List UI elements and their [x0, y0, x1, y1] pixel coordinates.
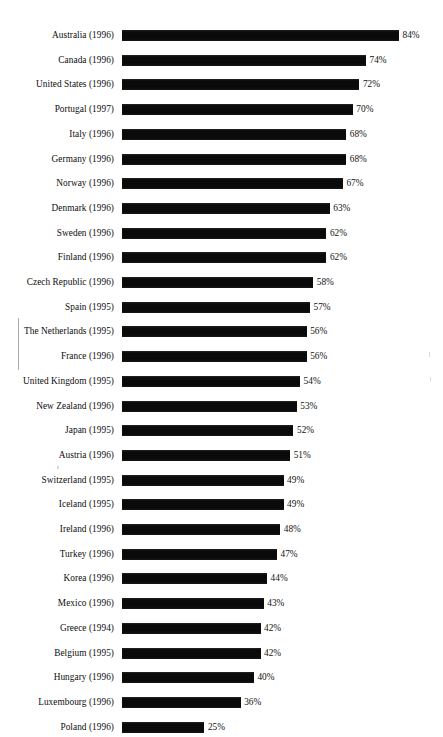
bar-row: New Zealand (1996)53% — [0, 394, 443, 419]
bar — [122, 401, 297, 412]
category-label: Germany (1996) — [0, 154, 118, 165]
bar — [122, 302, 310, 313]
bar-row: Germany (1996)68% — [0, 147, 443, 172]
bar — [122, 524, 280, 535]
bar-track: 43% — [118, 591, 443, 616]
bar-row: Denmark (1996)63% — [0, 196, 443, 221]
bar — [122, 475, 284, 486]
category-label: Norway (1996) — [0, 178, 118, 189]
bar-row: Iceland (1995)49% — [0, 492, 443, 517]
bar-row: Ireland (1996)48% — [0, 517, 443, 542]
bar-value-label: 70% — [356, 103, 373, 115]
bar — [122, 623, 261, 634]
category-label: Czech Republic (1996) — [0, 277, 118, 288]
bar — [122, 326, 307, 337]
bar — [122, 79, 359, 90]
bar-track: 68% — [118, 122, 443, 147]
bar-track: 53% — [118, 394, 443, 419]
bar-value-label: 48% — [284, 523, 301, 535]
bar-value-label: 36% — [244, 696, 261, 708]
bar-row: United Kingdom (1995)54% — [0, 369, 443, 394]
bar-track: 49% — [118, 492, 443, 517]
bar-row: United States (1996)72% — [0, 72, 443, 97]
bar-value-label: 62% — [330, 227, 347, 239]
bar — [122, 672, 254, 683]
category-label: Denmark (1996) — [0, 203, 118, 214]
bar-value-label: 53% — [300, 400, 317, 412]
scan-artifact-speck-left — [57, 466, 59, 469]
bar-row: Czech Republic (1996)58% — [0, 270, 443, 295]
bar — [122, 252, 326, 263]
bar-row: France (1996)56% — [0, 344, 443, 369]
category-label: Japan (1995) — [0, 425, 118, 436]
bar — [122, 549, 277, 560]
bar-value-label: 43% — [267, 597, 284, 609]
bar-track: 84% — [118, 23, 443, 48]
bar-track: 72% — [118, 72, 443, 97]
bar — [122, 30, 399, 41]
bar-track: 58% — [118, 270, 443, 295]
bar-track: 42% — [118, 641, 443, 666]
category-label: Greece (1994) — [0, 623, 118, 634]
bar-value-label: 49% — [287, 474, 304, 486]
bar-row: Canada (1996)74% — [0, 48, 443, 73]
bar-track: 44% — [118, 566, 443, 591]
bar-value-label: 84% — [403, 29, 420, 41]
category-label: Australia (1996) — [0, 30, 118, 41]
category-label: Luxembourg (1996) — [0, 697, 118, 708]
bar-row: Greece (1994)42% — [0, 616, 443, 641]
bar — [122, 203, 330, 214]
scan-artifact-line — [18, 318, 19, 370]
bar-track: 70% — [118, 97, 443, 122]
category-label: Canada (1996) — [0, 55, 118, 66]
bar-row: The Netherlands (1995)56% — [0, 319, 443, 344]
bar-value-label: 68% — [350, 153, 367, 165]
category-label: Belgium (1995) — [0, 648, 118, 659]
bar-track: 56% — [118, 344, 443, 369]
bar — [122, 598, 264, 609]
bar-track: 52% — [118, 418, 443, 443]
bar — [122, 376, 300, 387]
category-label: Spain (1995) — [0, 302, 118, 313]
bar-track: 67% — [118, 171, 443, 196]
bar-value-label: 40% — [257, 671, 274, 683]
bar — [122, 425, 293, 436]
bar-track: 54% — [118, 369, 443, 394]
bar-value-label: 63% — [333, 202, 350, 214]
category-label: United Kingdom (1995) — [0, 376, 118, 387]
bar-value-label: 47% — [281, 548, 298, 560]
bar-track: 47% — [118, 542, 443, 567]
bar-row: Sweden (1996)62% — [0, 221, 443, 246]
category-label: Switzerland (1995) — [0, 475, 118, 486]
bar-value-label: 57% — [313, 301, 330, 313]
bar-row: Turkey (1996)47% — [0, 542, 443, 567]
bar-row: Portugal (1997)70% — [0, 97, 443, 122]
category-label: New Zealand (1996) — [0, 401, 118, 412]
bar-value-label: 52% — [297, 424, 314, 436]
bar-track: 40% — [118, 665, 443, 690]
bar — [122, 277, 313, 288]
bar-track: 48% — [118, 517, 443, 542]
bar-value-label: 42% — [264, 622, 281, 634]
bar-value-label: 74% — [370, 54, 387, 66]
scan-artifact-speck-right-lower — [430, 377, 431, 381]
category-label: Finland (1996) — [0, 252, 118, 263]
bar-track: 36% — [118, 690, 443, 715]
category-label: Iceland (1995) — [0, 499, 118, 510]
category-label: Portugal (1997) — [0, 104, 118, 115]
bar-track: 42% — [118, 616, 443, 641]
bar-track: 49% — [118, 468, 443, 493]
category-label: Ireland (1996) — [0, 524, 118, 535]
bar-value-label: 25% — [208, 721, 225, 733]
category-label: United States (1996) — [0, 79, 118, 90]
category-label: Poland (1996) — [0, 722, 118, 733]
bar-value-label: 62% — [330, 251, 347, 263]
bar-value-label: 44% — [271, 572, 288, 584]
bar-value-label: 68% — [350, 128, 367, 140]
bar-track: 68% — [118, 147, 443, 172]
bar — [122, 351, 307, 362]
bar — [122, 722, 204, 733]
bar-row: Australia (1996)84% — [0, 23, 443, 48]
bar-value-label: 56% — [310, 350, 327, 362]
